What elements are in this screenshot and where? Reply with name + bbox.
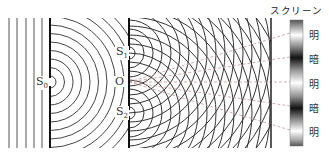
- label-s0: S0: [35, 76, 49, 90]
- fringe-label-bright: 明: [309, 27, 319, 42]
- double-slit-diagram: S0 S1 O S2 スクリーン 明 暗 明 暗 明: [0, 0, 329, 155]
- fringe-label-bright: 明: [309, 124, 319, 139]
- label-o: O: [114, 76, 125, 87]
- interference-figure: [0, 0, 329, 155]
- label-s1: S1: [115, 46, 129, 60]
- fringe-label-bright: 明: [309, 76, 319, 91]
- screen-title: スクリーン: [270, 3, 323, 17]
- label-s2: S2: [115, 106, 129, 120]
- fringe-label-dark: 暗: [309, 100, 319, 115]
- fringe-label-dark: 暗: [309, 51, 319, 66]
- fringe-pattern-bar: [290, 20, 303, 146]
